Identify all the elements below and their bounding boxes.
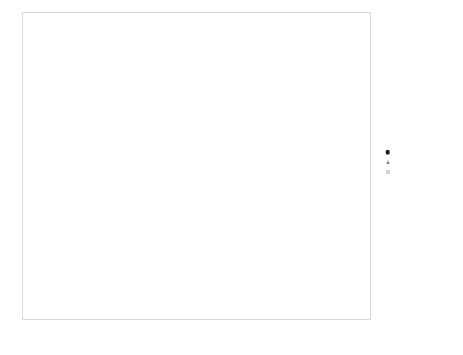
legend [382,142,463,177]
legend-item-social[interactable] [382,157,463,167]
regression-band-and-line [23,13,370,319]
scatter-plot-figure [0,0,463,355]
legend-item-utility[interactable] [382,167,463,177]
legend-circle-marker-icon [382,147,393,157]
legend-triangle-marker-icon [382,157,393,167]
legend-item-financial-competition[interactable] [382,147,463,157]
legend-square-marker-icon [382,167,393,177]
plot-panel [22,12,371,320]
